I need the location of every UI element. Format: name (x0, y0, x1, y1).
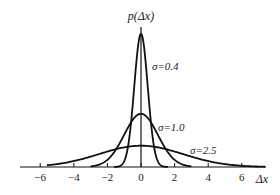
axes: −6−4−20246 (20, 27, 266, 183)
curves (47, 34, 265, 167)
x-tick-label: 4 (205, 171, 211, 183)
curve-label-sigma-0.4: σ=0.4 (152, 60, 179, 72)
x-tick-label: 0 (138, 171, 144, 183)
x-ticks: −6−4−20246 (34, 163, 245, 183)
curve-label-sigma-2.5: σ=2.5 (190, 144, 217, 156)
y-axis-label: p(Δx) (127, 9, 154, 23)
gaussian-chart: −6−4−20246 p(Δx) Δx σ=0.4 σ=1.0 σ=2.5 (0, 0, 280, 195)
x-tick-label: −6 (34, 171, 46, 183)
x-tick-label: −2 (102, 171, 114, 183)
x-axis-label: Δx (255, 172, 269, 186)
x-tick-label: 6 (239, 171, 245, 183)
x-tick-label: −4 (68, 171, 80, 183)
curve-label-sigma-1.0: σ=1.0 (158, 121, 185, 133)
x-tick-label: 2 (172, 171, 178, 183)
